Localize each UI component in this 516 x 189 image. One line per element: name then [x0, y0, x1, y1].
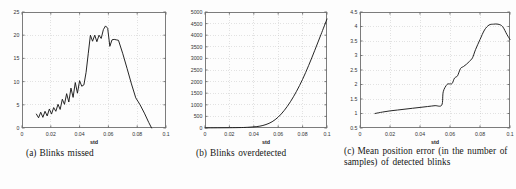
caption-c: (c)Mean position error (in the number of… — [344, 146, 512, 168]
svg-text:1500: 1500 — [191, 90, 203, 96]
svg-text:0: 0 — [359, 131, 362, 137]
caption-b-tag: (b) — [196, 148, 207, 158]
caption-a: (a)Blinks missed — [26, 148, 176, 159]
plot-area-c: 00.020.040.060.080.10.511.522.533.544.5s… — [332, 0, 516, 145]
svg-text:2500: 2500 — [191, 67, 203, 73]
svg-text:0.04: 0.04 — [75, 131, 85, 137]
svg-text:0: 0 — [17, 125, 20, 131]
caption-a-tag: (a) — [26, 148, 36, 158]
plot-area-a: 00.020.040.060.080.10510152025std — [0, 0, 172, 145]
svg-text:25: 25 — [14, 9, 20, 15]
svg-text:std: std — [262, 139, 270, 145]
svg-text:10: 10 — [14, 79, 20, 85]
svg-text:1000: 1000 — [191, 102, 203, 108]
svg-text:0.08: 0.08 — [298, 131, 308, 137]
caption-b-text: Blinks overdetected — [210, 148, 286, 158]
svg-text:0.08: 0.08 — [475, 131, 485, 137]
svg-text:0.06: 0.06 — [273, 131, 283, 137]
svg-text:0.1: 0.1 — [506, 131, 513, 137]
svg-text:0.02: 0.02 — [385, 131, 395, 137]
svg-text:0.08: 0.08 — [132, 131, 142, 137]
plot-area-b: 00.020.040.060.080.105001000150020002500… — [172, 0, 332, 145]
svg-text:0: 0 — [200, 125, 203, 131]
svg-text:3.5: 3.5 — [350, 38, 357, 44]
svg-text:3500: 3500 — [191, 44, 203, 50]
caption-c-tag: (c) — [344, 146, 354, 156]
chart-b-svg: 00.020.040.060.080.105001000150020002500… — [172, 0, 332, 145]
svg-text:2.5: 2.5 — [350, 67, 357, 73]
svg-text:0.06: 0.06 — [445, 131, 455, 137]
svg-text:0.02: 0.02 — [46, 131, 56, 137]
svg-text:0.04: 0.04 — [415, 131, 425, 137]
svg-text:4000: 4000 — [191, 32, 203, 38]
svg-text:0.5: 0.5 — [350, 125, 357, 131]
svg-text:2000: 2000 — [191, 79, 203, 85]
svg-text:2: 2 — [355, 81, 358, 87]
svg-text:500: 500 — [194, 113, 203, 119]
svg-text:4.5: 4.5 — [350, 9, 357, 15]
svg-text:std: std — [431, 139, 439, 145]
caption-a-text: Blinks missed — [39, 148, 93, 158]
svg-text:0: 0 — [21, 131, 24, 137]
svg-text:1: 1 — [355, 110, 358, 116]
chart-c-svg: 00.020.040.060.080.10.511.522.533.544.5s… — [332, 0, 516, 145]
chart-panel-a: 00.020.040.060.080.10510152025std — [0, 0, 172, 145]
chart-panel-b: 00.020.040.060.080.105001000150020002500… — [172, 0, 332, 145]
figure-container: 00.020.040.060.080.10510152025std (a)Bli… — [0, 0, 516, 189]
svg-text:std: std — [90, 139, 98, 145]
svg-text:0.1: 0.1 — [162, 131, 169, 137]
chart-a-svg: 00.020.040.060.080.10510152025std — [0, 0, 172, 145]
chart-panel-c: 00.020.040.060.080.10.511.522.533.544.5s… — [332, 0, 516, 145]
caption-c-text: Mean position error (in the number of sa… — [344, 146, 507, 167]
svg-text:4: 4 — [355, 23, 358, 29]
svg-text:0.02: 0.02 — [224, 131, 234, 137]
svg-text:4500: 4500 — [191, 21, 203, 27]
svg-text:3000: 3000 — [191, 55, 203, 61]
svg-text:1.5: 1.5 — [350, 96, 357, 102]
svg-text:3: 3 — [355, 52, 358, 58]
svg-text:0.1: 0.1 — [323, 131, 330, 137]
svg-text:0: 0 — [204, 131, 207, 137]
svg-text:5000: 5000 — [191, 9, 203, 15]
svg-text:20: 20 — [14, 32, 20, 38]
svg-text:15: 15 — [14, 55, 20, 61]
caption-b: (b)Blinks overdetected — [196, 148, 356, 159]
svg-text:0.06: 0.06 — [103, 131, 113, 137]
svg-text:0.04: 0.04 — [249, 131, 259, 137]
svg-text:5: 5 — [17, 102, 20, 108]
